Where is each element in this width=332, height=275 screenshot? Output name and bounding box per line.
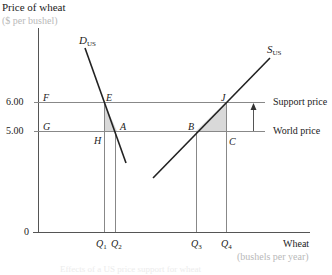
supply-label: SUS: [267, 44, 281, 57]
point-b: B: [188, 122, 194, 132]
point-e: E: [106, 93, 112, 103]
figure-caption: Effects of a US price support for wheat: [60, 265, 201, 274]
point-a: A: [120, 122, 126, 132]
point-c: C: [229, 137, 236, 147]
q1-sub: 1: [103, 243, 107, 251]
diagram-canvas: [0, 0, 332, 275]
origin-label: 0: [24, 227, 29, 237]
y-axis-unit: ($ per bushel): [2, 16, 58, 26]
point-g: G: [43, 122, 50, 132]
y-axis-title: Price of wheat: [2, 2, 66, 13]
arrow-head-icon: [251, 103, 257, 110]
demand-sub: US: [87, 40, 96, 48]
demand-letter: D: [79, 34, 87, 46]
x-tick-q4: Q4: [221, 239, 232, 251]
supply-sub: US: [273, 49, 282, 57]
q2-sub: 2: [118, 243, 122, 251]
x-axis-unit: (bushels per year): [237, 252, 309, 262]
supply-curve: [153, 58, 270, 178]
price-support-diagram: Price of wheat ($ per bushel) 6.00 5.00 …: [0, 0, 332, 275]
x-tick-q1: Q1: [96, 239, 107, 251]
point-f: F: [43, 93, 49, 103]
y-tick-6: 6.00: [6, 97, 24, 107]
q4-sub: 4: [228, 243, 232, 251]
q3-sub: 3: [198, 243, 202, 251]
world-price-label: World price: [273, 126, 320, 136]
support-price-label: Support price: [273, 97, 327, 107]
x-axis-title: Wheat: [283, 239, 309, 249]
y-tick-5: 5.00: [6, 126, 24, 136]
demand-curve: [85, 48, 126, 163]
shaded-triangle-supply: [196, 102, 226, 131]
demand-label: DUS: [79, 35, 96, 48]
point-h: H: [94, 136, 101, 146]
x-tick-q3: Q3: [191, 239, 202, 251]
x-tick-q2: Q2: [111, 239, 122, 251]
point-j: J: [221, 93, 225, 103]
